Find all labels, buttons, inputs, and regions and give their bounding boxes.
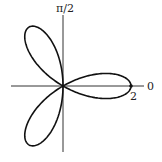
label-two: 2 (130, 90, 137, 103)
label-zero: 0 (147, 80, 154, 93)
polar-plot: 0 π/2 2 (0, 0, 162, 162)
label-half-pi: π/2 (56, 2, 74, 15)
radius-tick-dot (129, 84, 133, 88)
